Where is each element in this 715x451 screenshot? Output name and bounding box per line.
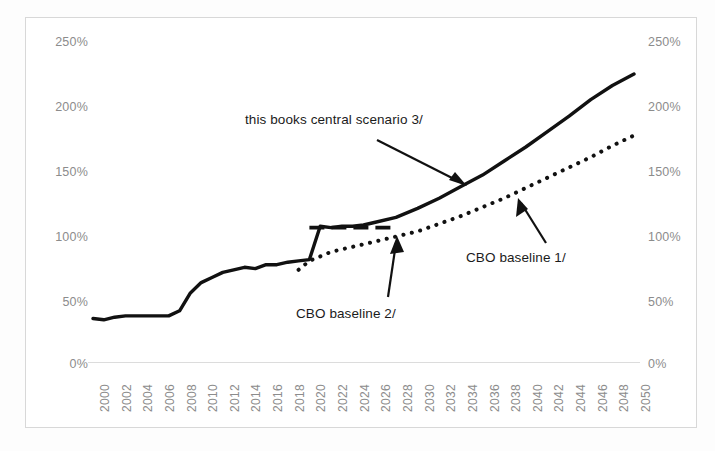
arrow-cbo-baseline-2 <box>388 236 404 297</box>
chart-container: 250% 200% 150% 100% 50% 0% 250% 200% 150… <box>0 0 715 451</box>
chart-plot-area <box>0 0 715 451</box>
arrow-cbo-baseline-1 <box>516 198 546 243</box>
series-line-central-scenario <box>93 74 634 320</box>
arrow-central-scenario <box>377 140 467 186</box>
annotation-central-scenario: this books central scenario 3/ <box>245 112 423 127</box>
annotation-cbo-baseline-1: CBO baseline 1/ <box>466 250 566 265</box>
annotation-cbo-baseline-2: CBO baseline 2/ <box>296 306 396 321</box>
